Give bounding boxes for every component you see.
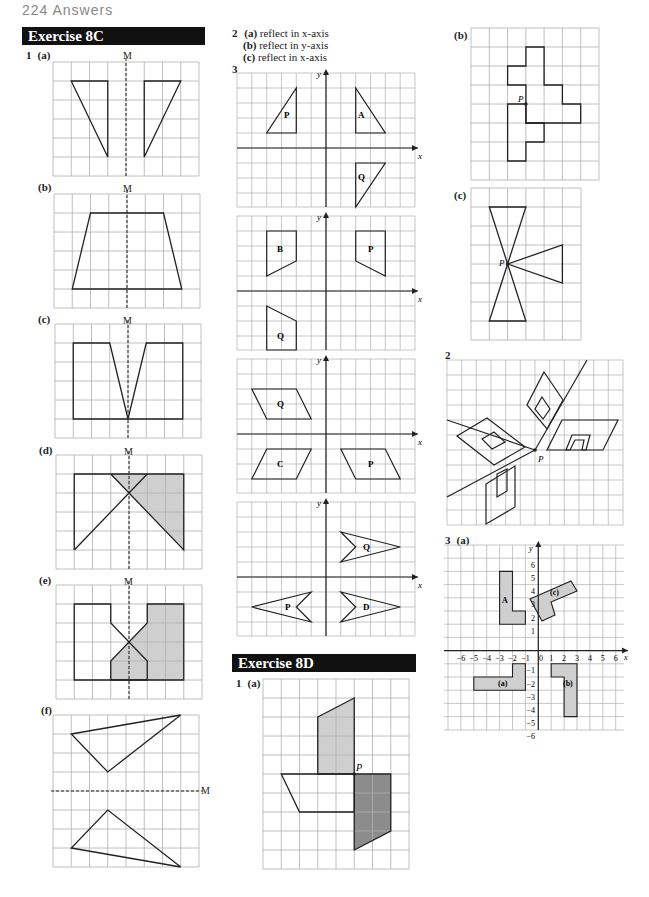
shape-label: (b) xyxy=(563,679,573,688)
diagram-1d xyxy=(56,455,202,569)
shape-label: Q xyxy=(277,331,284,341)
answer-row: (c) reflect in x-axis xyxy=(232,51,329,63)
point-label: P xyxy=(355,762,362,773)
shape-label: Q xyxy=(277,399,284,409)
svg-text:−4: −4 xyxy=(482,654,491,663)
y-axis-label: y xyxy=(316,355,321,365)
svg-text:−1: −1 xyxy=(526,666,535,675)
svg-text:3: 3 xyxy=(531,600,535,609)
part-label: (a) xyxy=(248,677,261,689)
shape-label: P xyxy=(285,602,291,612)
shape-label: D xyxy=(363,602,370,612)
svg-text:−3: −3 xyxy=(495,654,504,663)
svg-text:−1: −1 xyxy=(521,654,530,663)
point-label: P xyxy=(517,94,524,104)
mirror-label: M xyxy=(201,785,210,796)
x-tick-labels: −6−5−4 −3−2−1 0 123 456 xyxy=(457,654,618,663)
svg-text:6: 6 xyxy=(614,654,618,663)
question-2-answers: 2 (a) reflect in x-axis (b) reflect in y… xyxy=(232,27,329,63)
svg-text:5: 5 xyxy=(531,574,535,583)
svg-text:−6: −6 xyxy=(526,732,535,741)
answer-label: (b) xyxy=(243,39,256,51)
svg-text:1: 1 xyxy=(531,627,535,636)
diagram-3-grid-4: x y Q P D xyxy=(237,502,415,636)
shape-label: P xyxy=(368,459,374,469)
diagram-8d-1b: P xyxy=(471,28,599,180)
diagram-3-grid-3: x y Q C P xyxy=(237,359,415,493)
diagram-8d-1a: P xyxy=(263,679,409,869)
x-axis-label: x xyxy=(417,294,422,304)
y-axis-label: y xyxy=(316,212,321,222)
part-label-f: (f) xyxy=(41,704,52,716)
svg-text:3: 3 xyxy=(575,654,579,663)
svg-text:5: 5 xyxy=(601,654,605,663)
question-number: 1 xyxy=(26,49,32,61)
diagram-3-grid-2: x y B P Q xyxy=(237,216,415,350)
answer-row: (b) reflect in y-axis xyxy=(232,39,329,51)
diagram-1f xyxy=(53,715,199,867)
part-label-c: (c) xyxy=(38,313,50,325)
question-number: 2 xyxy=(232,27,238,39)
diagram-1b xyxy=(54,194,200,308)
x-axis-label: x xyxy=(623,653,628,662)
svg-text:−6: −6 xyxy=(457,654,466,663)
x-axis-label: x xyxy=(417,580,422,590)
diagram-8d-2: P xyxy=(447,360,623,525)
svg-text:−2: −2 xyxy=(508,654,517,663)
svg-text:4: 4 xyxy=(588,654,592,663)
y-axis-label: y xyxy=(316,498,321,508)
page-header: 224 Answers xyxy=(22,2,113,18)
svg-text:−5: −5 xyxy=(526,719,535,728)
svg-text:6: 6 xyxy=(531,561,535,570)
answer-text: reflect in y-axis xyxy=(259,39,328,51)
svg-text:−3: −3 xyxy=(526,693,535,702)
point-label: P xyxy=(537,454,544,464)
shape-label: Q xyxy=(363,542,370,552)
y-axis-label: y xyxy=(528,544,533,553)
svg-text:0: 0 xyxy=(539,654,543,663)
svg-text:1: 1 xyxy=(549,654,553,663)
svg-text:2: 2 xyxy=(531,614,535,623)
shape-label: A xyxy=(502,596,508,605)
mirror-label: M xyxy=(123,50,132,61)
shape-label: C xyxy=(277,459,284,469)
shape-label: P xyxy=(368,244,374,254)
shape-label: P xyxy=(284,110,290,120)
point-label: P xyxy=(498,258,505,268)
y-axis-label: y xyxy=(316,69,321,79)
shape-label: (c) xyxy=(550,588,559,597)
exercise-8d-banner: Exercise 8D xyxy=(232,654,416,672)
svg-text:−2: −2 xyxy=(526,680,535,689)
question-1-label: 1(a) xyxy=(236,677,260,689)
part-label-c: (c) xyxy=(454,189,466,201)
shape-label: B xyxy=(277,244,283,254)
question-1-label: 1(a) xyxy=(26,49,50,61)
exercise-8c-banner: Exercise 8C xyxy=(22,27,205,45)
diagram-8d-3a: x y −6−5−4 −3−2−1 0 123 456 654 321 −1−2… xyxy=(444,545,624,730)
part-label-e: (e) xyxy=(39,574,51,586)
question-number: 1 xyxy=(236,677,242,689)
shape-label: (a) xyxy=(498,679,508,688)
answer-row: 2 (a) reflect in x-axis xyxy=(232,27,329,39)
svg-text:−5: −5 xyxy=(470,654,479,663)
diagram-1a xyxy=(53,62,199,176)
diagram-3-grid-1: x y P A Q xyxy=(237,73,415,207)
answer-text: reflect in x-axis xyxy=(260,27,329,39)
diagram-8d-1c: P xyxy=(471,188,581,340)
part-label-b: (b) xyxy=(454,29,467,41)
svg-text:4: 4 xyxy=(531,587,535,596)
svg-text:2: 2 xyxy=(562,654,566,663)
x-axis-label: x xyxy=(417,437,422,447)
svg-text:−4: −4 xyxy=(526,706,535,715)
part-label-b: (b) xyxy=(38,181,51,193)
answer-text: reflect in x-axis xyxy=(258,51,327,63)
shape-label: Q xyxy=(358,172,365,182)
x-axis-label: x xyxy=(417,151,422,161)
diagram-1c xyxy=(55,324,201,438)
shape-label: A xyxy=(358,110,365,120)
diagram-1e xyxy=(56,585,202,699)
answer-label: (a) xyxy=(244,27,257,39)
part-label: (a) xyxy=(38,49,51,61)
answer-label: (c) xyxy=(243,51,255,63)
part-label-d: (d) xyxy=(39,444,52,456)
